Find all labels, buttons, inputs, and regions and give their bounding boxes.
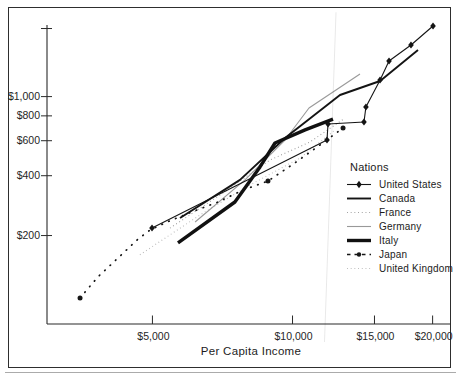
- bottom-rule: [5, 372, 456, 373]
- figure-page: $200$400$600$800$1,000$5,000$10,000$15,0…: [0, 0, 460, 377]
- legend-item-italy: Italy: [346, 234, 453, 248]
- marker-united-states-7: [408, 41, 414, 48]
- series-line-germany: [195, 74, 360, 222]
- marker-united-states-4: [363, 103, 369, 110]
- legend-item-germany: Germany: [346, 220, 453, 234]
- marker-japan-0: [78, 296, 83, 301]
- legend-label-germany: Germany: [379, 221, 422, 232]
- series-line-japan: [80, 128, 343, 298]
- y-tick-label-200: $200: [17, 229, 41, 241]
- italy-line-sample-icon: [346, 235, 372, 246]
- united-kingdom-line-sample-icon: [346, 263, 372, 274]
- legend-title: Nations: [350, 161, 453, 173]
- marker-united-states-1: [324, 136, 330, 143]
- series-line-italy: [178, 119, 333, 243]
- legend-label-italy: Italy: [379, 235, 398, 246]
- germany-line-sample-icon: [346, 221, 372, 232]
- marker-united-states-8: [430, 23, 436, 30]
- marker-japan-9: [265, 179, 270, 184]
- y-tick-label-600: $600: [17, 134, 41, 146]
- legend-label-canada: Canada: [379, 193, 415, 204]
- legend-items: United StatesCanadaFranceGermanyItalyJap…: [346, 178, 453, 275]
- united-states-line-sample-icon: [346, 179, 372, 190]
- x-tick-label-10000: $10,000: [275, 330, 313, 342]
- france-line-sample-icon: [346, 207, 372, 218]
- x-tick-label-5000: $5,000: [137, 330, 169, 342]
- japan-line-sample-icon: [346, 249, 372, 260]
- y-tick-label-1000: $1,000: [8, 90, 40, 102]
- canada-line-sample-icon: [346, 193, 372, 204]
- legend-item-japan: Japan: [346, 247, 453, 261]
- legend-item-france: France: [346, 206, 453, 220]
- marker-united-states-6: [386, 58, 392, 65]
- marker-japan-12: [341, 126, 346, 131]
- y-tick-label-400: $400: [17, 169, 41, 181]
- legend-label-united-states: United States: [379, 179, 442, 190]
- x-tick-label-15000: $15,000: [356, 330, 394, 342]
- y-tick-label-800: $800: [17, 109, 41, 121]
- legend-label-japan: Japan: [379, 249, 407, 260]
- legend-item-united-states: United States: [346, 178, 453, 192]
- legend-item-united-kingdom: United Kingdom: [346, 261, 453, 275]
- legend-item-canada: Canada: [346, 192, 453, 206]
- legend: Nations United StatesCanadaFranceGermany…: [346, 161, 453, 275]
- legend-label-france: France: [379, 207, 411, 218]
- x-axis-title: Per Capita Income: [150, 345, 352, 357]
- x-tick-label-20000: $20,000: [415, 330, 453, 342]
- legend-label-united-kingdom: United Kingdom: [379, 263, 453, 274]
- marker-united-states-3: [361, 119, 367, 126]
